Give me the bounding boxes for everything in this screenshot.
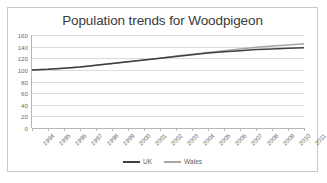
x-axis-tick-label: 1997: [89, 132, 104, 147]
y-axis-tick-label: 120: [6, 58, 28, 59]
x-axis-tick: [48, 128, 49, 131]
x-axis-tick: [96, 128, 97, 131]
x-axis-tick-label: 1996: [73, 132, 88, 147]
x-axis-tick-label: 2005: [217, 132, 232, 147]
x-axis-tick-label: 2011: [313, 132, 327, 146]
x-axis-tick-label: 2000: [137, 132, 152, 147]
x-axis-tick-label: 2010: [297, 132, 312, 147]
gridline: 0: [32, 128, 304, 129]
legend-line-icon: [123, 161, 140, 163]
x-axis-tick-label: 1994: [41, 132, 56, 147]
x-axis-tick-label: 2007: [249, 132, 264, 147]
x-axis-tick: [112, 128, 113, 131]
x-axis-tick-label: 2008: [265, 132, 280, 147]
x-axis-tick: [144, 128, 145, 131]
x-axis-tick: [64, 128, 65, 131]
x-axis-tick: [304, 128, 305, 131]
x-axis-tick: [160, 128, 161, 131]
chart-title: Population trends for Woodpigeon: [8, 13, 317, 28]
x-axis-tick: [128, 128, 129, 131]
x-axis-tick-label: 1998: [105, 132, 120, 147]
x-axis-tick: [208, 128, 209, 131]
legend-item-wales[interactable]: Wales: [164, 158, 202, 165]
chart-container: Population trends for Woodpigeon 1601401…: [7, 7, 318, 172]
x-axis-tick-label: 2002: [169, 132, 184, 147]
y-axis-tick-label: 40: [6, 105, 28, 106]
x-axis-tick: [192, 128, 193, 131]
y-axis-tick-label: 140: [6, 47, 28, 48]
series-lines: [32, 35, 304, 128]
y-axis-tick-label: 0: [6, 128, 28, 129]
y-axis-tick-label: 20: [6, 116, 28, 117]
legend-label: UK: [143, 158, 152, 165]
x-axis-tick-label: 2006: [233, 132, 248, 147]
x-axis-tick: [32, 128, 33, 131]
y-axis-tick-label: 60: [6, 93, 28, 94]
x-axis-tick-label: 1995: [57, 132, 72, 147]
plot-area: 1601401201008060402001994199519961997199…: [32, 35, 304, 128]
x-axis-tick: [80, 128, 81, 131]
legend-item-uk[interactable]: UK: [123, 158, 152, 165]
x-axis-tick-label: 2003: [185, 132, 200, 147]
x-axis-tick: [240, 128, 241, 131]
chart-legend: UKWales: [8, 158, 317, 165]
x-axis-tick-label: 2004: [201, 132, 216, 147]
x-axis-tick: [272, 128, 273, 131]
legend-label: Wales: [184, 158, 202, 165]
y-axis-tick-label: 80: [6, 82, 28, 83]
x-axis-tick-label: 2001: [153, 132, 168, 147]
x-axis-tick: [288, 128, 289, 131]
series-line-uk: [32, 48, 304, 70]
x-axis-tick: [256, 128, 257, 131]
y-axis-tick-label: 160: [6, 35, 28, 36]
x-axis-tick: [224, 128, 225, 131]
legend-line-icon: [164, 161, 181, 163]
x-axis-tick: [176, 128, 177, 131]
x-axis-tick-label: 2009: [281, 132, 296, 147]
y-axis-tick-label: 100: [6, 70, 28, 71]
x-axis-tick-label: 1999: [121, 132, 136, 147]
